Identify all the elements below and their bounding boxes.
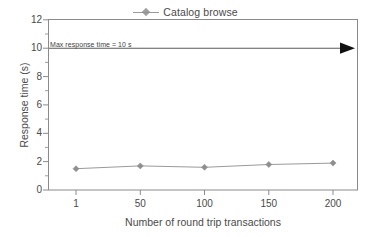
x-tick-label: 50 [120,199,160,209]
y-axis-title: Response time (s) [16,10,32,200]
x-axis-title: Number of round trip transactions [48,216,358,228]
x-tick-label: 200 [313,199,353,209]
chart-figure: Catalog browse [0,0,371,237]
x-tick-label: 100 [185,199,225,209]
annotation-label: Max response time = 10 s [50,41,132,48]
x-tick-label: 150 [249,199,289,209]
x-tick-label: 1 [56,199,96,209]
x-axis-tick-labels: 1 50 100 150 200 [0,0,371,237]
